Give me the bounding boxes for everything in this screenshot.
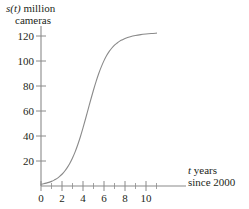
y-axis-title-line2: cameras bbox=[6, 14, 55, 26]
axes-group bbox=[41, 26, 186, 186]
x-tick-label-0: 0 bbox=[31, 193, 51, 204]
x-tick-label-8: 8 bbox=[115, 193, 135, 204]
x-axis-title: t years since 2000 bbox=[188, 164, 235, 188]
x-axis-title-line2: since 2000 bbox=[188, 176, 235, 188]
y-axis-title-variable: s(t) bbox=[6, 2, 21, 14]
y-tick-label-60: 60 bbox=[8, 106, 34, 117]
camera-sales-chart: s(t) million cameras t years since 2000 … bbox=[0, 0, 249, 209]
y-tick-label-80: 80 bbox=[8, 81, 34, 92]
logistic-curve bbox=[41, 33, 157, 184]
y-tick-label-120: 120 bbox=[8, 31, 34, 42]
y-axis-title: s(t) million cameras bbox=[6, 2, 55, 26]
x-axis-title-units: years bbox=[191, 164, 217, 176]
x-tick-label-6: 6 bbox=[94, 193, 114, 204]
y-tick-label-20: 20 bbox=[8, 156, 34, 167]
y-axis-title-units: million bbox=[21, 2, 56, 14]
x-tick-label-10: 10 bbox=[136, 193, 156, 204]
y-tick-label-100: 100 bbox=[8, 56, 34, 67]
x-tick-label-2: 2 bbox=[52, 193, 72, 204]
x-tick-label-4: 4 bbox=[73, 193, 93, 204]
y-tick-label-40: 40 bbox=[8, 131, 34, 142]
